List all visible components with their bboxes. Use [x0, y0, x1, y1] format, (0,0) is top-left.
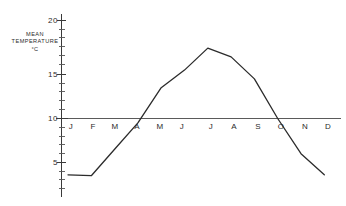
plot-area — [0, 0, 346, 206]
temperature-line-chart: MEAN TEMPERATURE °C 20 15 10 5 J F M A M… — [0, 0, 346, 206]
temperature-data-line — [68, 48, 324, 176]
